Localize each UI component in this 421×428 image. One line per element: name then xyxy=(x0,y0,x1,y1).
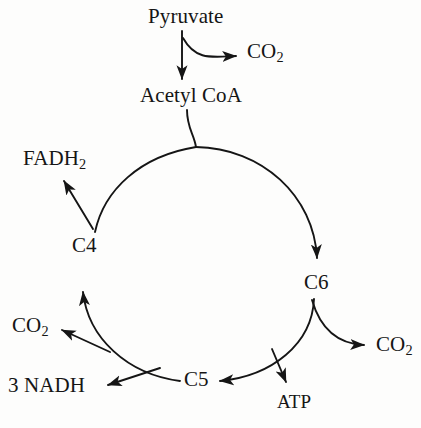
node-fadh2-label: FADH xyxy=(23,146,79,170)
arrow-pyruvate-to-co2 xyxy=(183,38,236,57)
node-acetyl-coa-label: Acetyl CoA xyxy=(140,83,242,107)
arrow-c5-to-nadh xyxy=(108,368,160,385)
node-co2-right-subscript: 2 xyxy=(405,342,412,358)
arc-c5-to-c4 xyxy=(83,292,180,381)
arrow-c4-to-fadh2 xyxy=(64,181,93,229)
node-fadh2: FADH2 xyxy=(23,148,86,171)
node-pyruvate: Pyruvate xyxy=(148,6,223,27)
node-co2-top: CO2 xyxy=(247,41,284,64)
node-c4-label: C4 xyxy=(72,233,97,257)
node-c5: C5 xyxy=(184,369,209,390)
arc-c6-to-c5 xyxy=(220,299,314,381)
node-co2-left-label: CO xyxy=(12,313,41,337)
node-nadh: 3 NADH xyxy=(8,375,85,396)
node-nadh-label: 3 NADH xyxy=(8,373,85,397)
node-co2-left-subscript: 2 xyxy=(41,323,48,339)
node-c6: C6 xyxy=(304,272,329,293)
arrow-c6-to-atp xyxy=(272,349,286,382)
node-c4: C4 xyxy=(72,235,97,256)
node-c6-label: C6 xyxy=(304,270,329,294)
arc-c4-to-cycle-top xyxy=(95,147,196,232)
arrow-c6-to-co2-right xyxy=(312,300,364,345)
node-atp: ATP xyxy=(277,392,311,411)
node-co2-left: CO2 xyxy=(12,315,49,338)
node-co2-top-label: CO xyxy=(247,39,276,63)
node-co2-top-subscript: 2 xyxy=(276,49,283,65)
node-pyruvate-label: Pyruvate xyxy=(148,4,223,28)
node-c5-label: C5 xyxy=(184,367,209,391)
node-fadh2-subscript: 2 xyxy=(79,156,86,172)
connector-acetylcoa-to-cycle xyxy=(187,110,196,147)
krebs-cycle-diagram: Pyruvate CO2 Acetyl CoA FADH2 C4 C6 CO2 … xyxy=(0,0,421,428)
arc-cycle-top-to-c6 xyxy=(196,147,317,258)
node-co2-right: CO2 xyxy=(376,334,413,357)
diagram-canvas xyxy=(0,0,421,428)
node-atp-label: ATP xyxy=(277,391,311,412)
node-acetyl-coa: Acetyl CoA xyxy=(140,85,242,106)
node-co2-right-label: CO xyxy=(376,332,405,356)
